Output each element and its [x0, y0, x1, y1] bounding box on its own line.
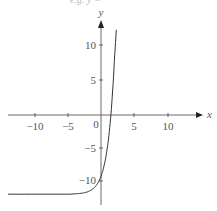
- origin-label: 0: [93, 118, 99, 130]
- x-tick-label: −10: [26, 120, 44, 132]
- x-tick-label: −5: [62, 120, 74, 132]
- y-tick-label: 10: [85, 39, 97, 51]
- y-tick-label: −10: [79, 174, 97, 186]
- y-tick-label: 5: [91, 74, 97, 86]
- x-tick-label: 5: [131, 120, 137, 132]
- x-axis-label: x: [206, 108, 212, 120]
- exponential-curve: [8, 30, 116, 194]
- chart: −10 −5 0 5 10 −10 −5 5 10 x y: [0, 0, 217, 211]
- y-tick-label: −5: [84, 142, 96, 154]
- x-tick-label: 10: [163, 120, 175, 132]
- x-axis-arrow-icon: [196, 112, 203, 118]
- y-axis-label: y: [98, 6, 104, 18]
- y-axis-arrow-icon: [98, 20, 104, 28]
